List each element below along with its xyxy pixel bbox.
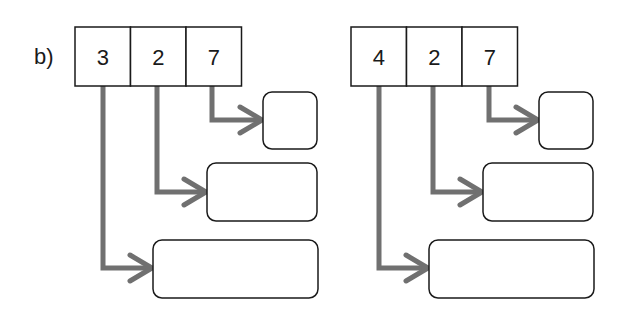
target-box bbox=[263, 92, 317, 149]
pointer-arrow bbox=[212, 86, 262, 133]
pointer-arrow bbox=[433, 86, 482, 205]
array: 327 bbox=[75, 27, 242, 86]
array: 427 bbox=[351, 27, 518, 86]
target-box bbox=[429, 240, 594, 298]
target-box bbox=[539, 92, 593, 149]
array-cell-value: 2 bbox=[152, 45, 164, 70]
target-box bbox=[153, 240, 318, 298]
array-cell-value: 7 bbox=[484, 45, 496, 70]
target-box bbox=[207, 163, 317, 221]
diagram-left: 327 bbox=[75, 27, 318, 298]
diagram-right: 427 bbox=[351, 27, 594, 298]
array-cell-value: 7 bbox=[208, 45, 220, 70]
pointer-arrow bbox=[103, 86, 152, 281]
pointer-arrow bbox=[157, 86, 206, 205]
pointer-array-diagram: 327427 bbox=[0, 0, 623, 323]
pointer-arrow bbox=[379, 86, 428, 281]
array-cell-value: 3 bbox=[97, 45, 109, 70]
target-box bbox=[483, 163, 593, 221]
pointer-arrow bbox=[489, 86, 538, 133]
array-cell-value: 4 bbox=[373, 45, 385, 70]
array-cell-value: 2 bbox=[428, 45, 440, 70]
